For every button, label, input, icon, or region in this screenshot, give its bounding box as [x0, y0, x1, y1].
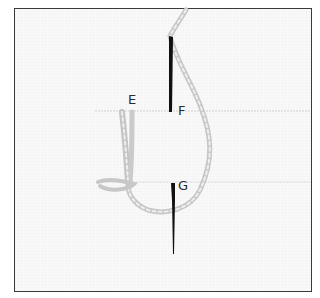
- stitch-illustration: [0, 0, 320, 298]
- label-g: G: [178, 178, 188, 193]
- label-e: E: [128, 92, 136, 107]
- needle-upper: [169, 36, 173, 112]
- label-f: F: [178, 103, 185, 118]
- needle-lower: [171, 183, 175, 254]
